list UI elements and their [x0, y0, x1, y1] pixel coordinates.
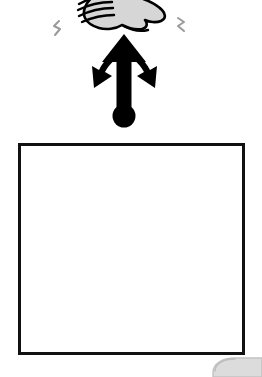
arrow-pivot-dot [113, 105, 136, 128]
grey-object-body [213, 358, 262, 377]
illustration-canvas: Hand gesture with multi-directional arro… [0, 0, 262, 377]
illustration-artboard [0, 0, 262, 377]
grey-object-corner [213, 358, 262, 377]
content-frame [20, 145, 244, 354]
